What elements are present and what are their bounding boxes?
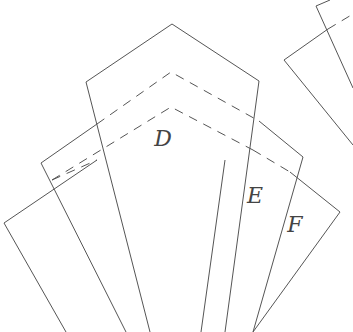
piece-e-fold-line (253, 150, 290, 172)
piece-d-fold-line-upper (97, 72, 259, 124)
piece-label-f: F (286, 212, 303, 237)
piece-h-outline (316, 0, 353, 88)
piece-d-fold-line-lower (52, 107, 253, 180)
pattern-diagram: D E F (0, 0, 353, 332)
piece-label-e: E (246, 183, 263, 208)
piece-g-outline (284, 29, 353, 145)
piece-d-outline (86, 24, 259, 332)
piece-e-left-edge (201, 160, 225, 332)
piece-f-outline (253, 172, 340, 332)
piece-h-fold-line (328, 14, 353, 29)
piece-b-outline (41, 124, 126, 332)
piece-b-fold-line (52, 160, 97, 180)
piece-label-d: D (153, 126, 172, 151)
